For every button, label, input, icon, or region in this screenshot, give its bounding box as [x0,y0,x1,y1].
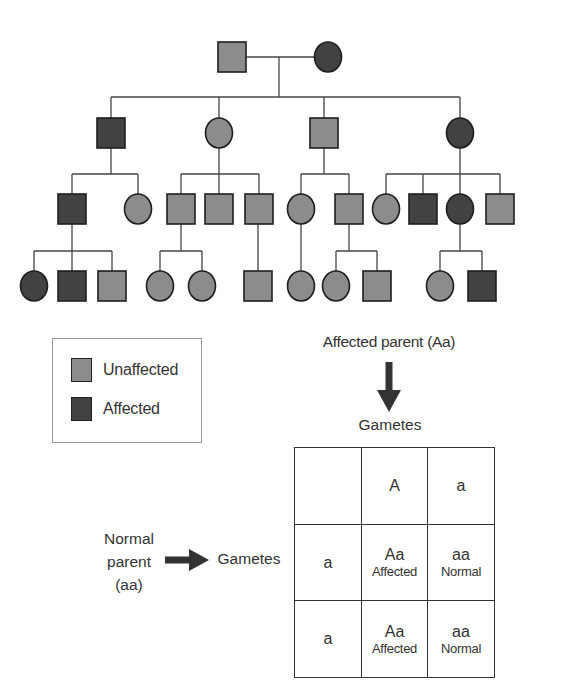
male-square-icon-affected [97,118,125,148]
male-square-icon-unaffected [244,271,272,301]
male-square-icon-unaffected [310,118,338,148]
punnett-row-gamete: a [295,525,362,601]
normal-parent-label: Normal parent (aa) [89,527,169,596]
female-circle-icon-affected [21,271,48,301]
female-circle-icon-affected [447,118,474,148]
punnett-row-gamete: a [295,601,362,678]
punnett-row: a Aa Affected aa Normal [295,601,495,678]
phenotype: Affected [362,564,427,579]
female-circle-icon-unaffected [206,118,233,148]
left-gametes-label: Gametes [214,550,284,568]
female-circle-icon-unaffected [147,271,174,301]
punnett-header-cell: a [428,448,495,525]
legend-label-affected: Affected [103,400,160,418]
female-circle-icon-unaffected [189,271,216,301]
affected-swatch-icon [71,397,92,421]
genotype: Aa [362,546,427,564]
punnett-cell: Aa Affected [362,525,428,601]
female-circle-icon-unaffected [288,194,315,224]
female-circle-icon-affected [447,194,474,224]
genotype: aa [428,546,494,564]
male-square-icon-affected [58,271,86,301]
right-arrow-icon [165,549,209,571]
phenotype: Normal [428,641,494,656]
female-circle-icon-unaffected [288,271,315,301]
male-square-icon-unaffected [363,271,391,301]
female-circle-icon-unaffected [125,194,152,224]
punnett-cell: Aa Affected [362,601,428,678]
pedigree-chart [0,0,579,330]
male-square-icon-affected [409,194,437,224]
normal-parent-line-1: Normal [89,527,169,550]
legend-item-affected: Affected [71,397,160,421]
female-circle-icon-unaffected [323,271,350,301]
punnett-square: A a a Aa Affected aa Normal a Aa Affecte… [294,447,495,678]
female-circle-icon-affected [315,42,342,72]
male-square-icon-unaffected [167,194,195,224]
male-square-icon-unaffected [335,194,363,224]
male-square-icon-affected [468,271,496,301]
punnett-header-cell: A [362,448,428,525]
punnett-cell: aa Normal [428,601,495,678]
affected-parent-label: Affected parent (Aa) [314,333,464,351]
phenotype: Normal [428,564,494,579]
male-square-icon-unaffected [98,271,126,301]
legend-box: Unaffected Affected [52,338,202,443]
punnett-header-row: A a [295,448,495,525]
female-circle-icon-unaffected [373,194,400,224]
unaffected-swatch-icon [71,358,92,382]
gamete-A: A [362,477,427,495]
male-square-icon-unaffected [245,194,273,224]
top-gametes-label: Gametes [340,416,440,434]
male-square-icon-unaffected [218,42,246,72]
genotype: aa [428,623,494,641]
normal-parent-line-3: (aa) [89,573,169,596]
punnett-corner-cell [295,448,362,525]
legend-label-unaffected: Unaffected [103,361,178,379]
legend-item-unaffected: Unaffected [71,358,178,382]
pedigree-lines [34,57,500,271]
genotype: Aa [362,623,427,641]
normal-parent-line-2: parent [89,550,169,573]
gamete-a: a [428,477,494,495]
male-square-icon-affected [58,194,86,224]
down-arrow-icon [377,362,401,412]
male-square-icon-unaffected [486,194,514,224]
punnett-row: a Aa Affected aa Normal [295,525,495,601]
male-square-icon-unaffected [205,194,233,224]
phenotype: Affected [362,641,427,656]
female-circle-icon-unaffected [427,271,454,301]
punnett-cell: aa Normal [428,525,495,601]
